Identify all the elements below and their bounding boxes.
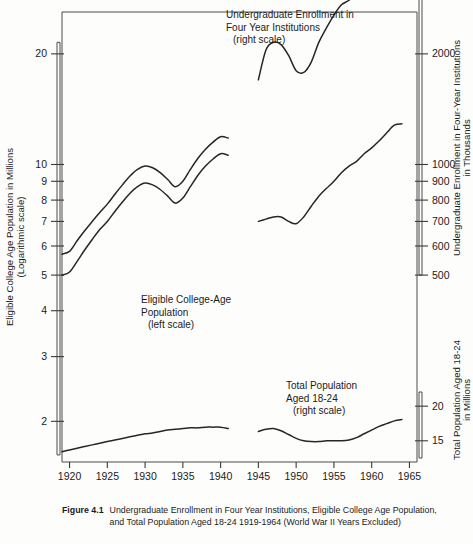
left-axis-tick-label-9: 9 <box>41 175 47 187</box>
x-axis-tick-label-1950: 1950 <box>284 470 308 482</box>
series-2-post-war-curve <box>258 420 402 442</box>
right-lower-axis-subtitle: in Millions <box>461 379 472 421</box>
x-axis-tick-label-1965: 1965 <box>398 470 422 482</box>
total-population-label-line-3: (right scale) <box>293 405 345 416</box>
total-population-label-line-1: Total Population <box>286 380 357 391</box>
left-axis-tick-label-6: 6 <box>41 240 47 252</box>
x-axis-tick-label-1920: 1920 <box>58 470 82 482</box>
enrollment-label-line-3: (right scale) <box>233 34 285 45</box>
left-axis-tick-label-20: 20 <box>35 47 47 59</box>
right-lower-axis-tick-label-20: 20 <box>432 400 444 412</box>
figure-caption: Figure 4.1 Undergraduate Enrollment in F… <box>0 505 473 528</box>
plot-frame <box>62 12 417 462</box>
right-lower-axis-tick-label-15: 15 <box>432 434 444 446</box>
left-axis-tick-label-8: 8 <box>41 194 47 206</box>
left-axis-tick-label-10: 10 <box>35 158 47 170</box>
eligible-label-line-3: (left scale) <box>148 319 194 330</box>
x-axis-tick-label-1935: 1935 <box>171 470 195 482</box>
series-2-pre-war-curve <box>62 427 228 452</box>
chart-canvas: 201098765432Eligible College Age Populat… <box>0 0 473 505</box>
x-axis-tick-label-1940: 1940 <box>209 470 233 482</box>
right-upper-axis-tick-label-900: 900 <box>432 175 450 187</box>
eligible-label-line-2: Population <box>141 307 188 318</box>
total-population-label-line-2: Aged 18-24 <box>286 393 338 404</box>
series-1-pre-war-curve <box>62 154 228 276</box>
series-0-post-war-curve <box>258 124 402 224</box>
right-upper-axis-subtitle: in Thousands <box>461 119 472 177</box>
left-axis-title: Eligible College Age Population in Milli… <box>4 148 15 326</box>
right-upper-axis-tick-label-500: 500 <box>432 269 450 281</box>
enrollment-label-line-2: Four Year Institutions <box>226 22 320 33</box>
series-0-pre-war-curve <box>62 137 228 255</box>
x-axis-tick-label-1960: 1960 <box>360 470 384 482</box>
right-upper-axis-tick-label-600: 600 <box>432 240 450 252</box>
x-axis-tick-label-1955: 1955 <box>322 470 346 482</box>
x-axis-tick-label-1945: 1945 <box>247 470 271 482</box>
left-axis-tick-label-7: 7 <box>41 215 47 227</box>
left-axis-tick-label-5: 5 <box>41 269 47 281</box>
eligible-label-line-1: Eligible College-Age <box>141 294 231 305</box>
figure-4-1: 201098765432Eligible College Age Populat… <box>0 0 473 544</box>
enrollment-label-line-1: Undergraduate Enrollment in <box>226 9 354 20</box>
x-axis-tick-label-1930: 1930 <box>133 470 157 482</box>
right-upper-axis-tick-label-800: 800 <box>432 194 450 206</box>
left-axis-tick-label-3: 3 <box>41 350 47 362</box>
left-axis-tick-label-4: 4 <box>41 304 47 316</box>
right-upper-axis-tick-label-700: 700 <box>432 215 450 227</box>
figure-caption-text: Undergraduate Enrollment in Four Year In… <box>110 505 447 528</box>
figure-number: Figure 4.1 <box>62 505 110 528</box>
left-axis-subtitle: (Logarithmic scale) <box>15 196 26 277</box>
x-axis-tick-label-1925: 1925 <box>96 470 120 482</box>
left-axis-tick-label-2: 2 <box>41 415 47 427</box>
